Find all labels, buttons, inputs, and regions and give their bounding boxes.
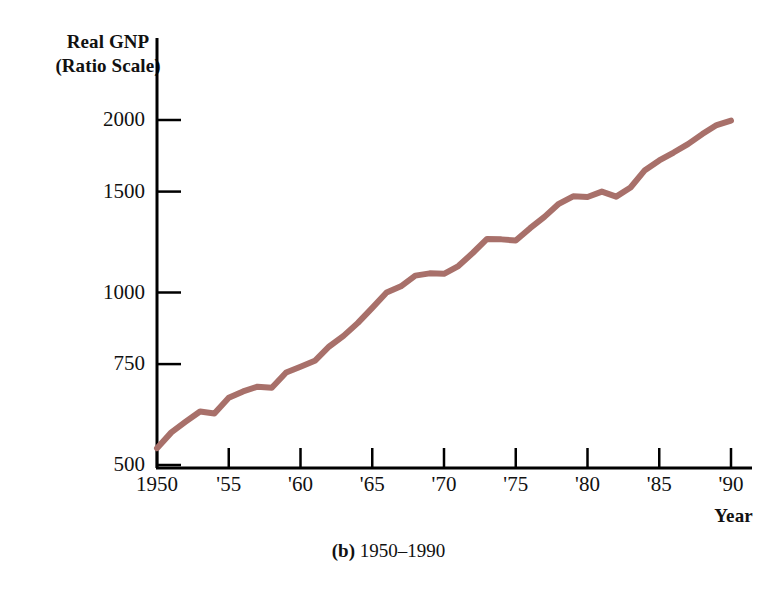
y-axis-tick-label: 750	[75, 353, 145, 374]
x-axis-tick-label: '70	[432, 474, 457, 495]
y-axis-ticks	[157, 120, 181, 465]
x-axis-tick-label: '60	[288, 474, 313, 495]
x-axis-tick-label: '75	[503, 474, 528, 495]
caption-text: 1950–1990	[360, 540, 446, 561]
y-axis-tick-label: 1000	[75, 282, 145, 303]
y-axis-tick-label: 2000	[75, 109, 145, 130]
figure-caption: (b) 1950–1990	[0, 540, 777, 562]
y-axis-tick-label: 1500	[75, 181, 145, 202]
x-axis-tick-label: '80	[575, 474, 600, 495]
figure-real-gnp-1950-1990: Real GNP (Ratio Scale) 20001500100075050…	[0, 0, 777, 602]
x-axis-tick-label: '90	[719, 474, 744, 495]
x-axis-ticks	[157, 448, 731, 468]
axis-lines	[156, 38, 752, 468]
x-axis-tick-label: '85	[647, 474, 672, 495]
y-axis-tick-label: 500	[75, 454, 145, 475]
plot-area: 200015001000750500 1950'55'60'65'70'75'8…	[0, 0, 777, 602]
x-axis-tick-label: 1950	[136, 474, 178, 495]
data-line-real-gnp	[157, 121, 731, 449]
caption-label: (b)	[332, 540, 355, 561]
x-axis-tick-label: '55	[216, 474, 241, 495]
x-axis-title: Year	[714, 505, 753, 527]
x-axis-tick-label: '65	[360, 474, 385, 495]
